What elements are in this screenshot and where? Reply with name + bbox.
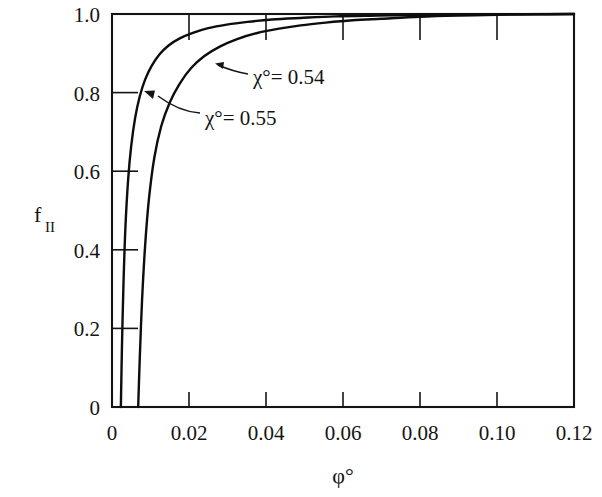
x-axis-top-ticks — [189, 14, 497, 40]
annotation-chi-055: χ°= 0.55 — [204, 106, 277, 130]
x-tick-label: 0.12 — [556, 421, 593, 445]
chart-svg: 1.0 0.8 0.6 0.4 0.2 0 0 0.02 0.04 0.06 0… — [0, 0, 602, 497]
x-tick-label: 0.10 — [479, 421, 516, 445]
x-axis-ticks — [112, 392, 574, 407]
data-curve-chi-054 — [138, 14, 574, 407]
y-axis-label-subscript: II — [45, 219, 55, 235]
y-tick-label: 0.6 — [74, 160, 100, 184]
arrowhead-chi-054 — [215, 62, 224, 69]
x-tick-label: 0.08 — [402, 421, 439, 445]
figure-container: 1.0 0.8 0.6 0.4 0.2 0 0 0.02 0.04 0.06 0… — [0, 0, 602, 497]
y-axis-tick-labels: 1.0 0.8 0.6 0.4 0.2 0 — [74, 3, 101, 420]
x-axis-label: φ° — [332, 463, 354, 488]
data-curves — [121, 14, 574, 407]
y-tick-label: 1.0 — [74, 3, 100, 27]
y-axis-ticks — [112, 14, 138, 328]
y-axis-label: f — [34, 202, 42, 227]
x-tick-label: 0.06 — [325, 421, 362, 445]
arrowhead-chi-055 — [144, 91, 155, 100]
y-tick-label: 0.4 — [74, 239, 101, 263]
y-tick-label: 0.2 — [74, 317, 100, 341]
x-axis-tick-labels: 0 0.02 0.04 0.06 0.08 0.10 0.12 — [107, 421, 593, 445]
leader-line-chi-055 — [158, 96, 200, 113]
data-curve-chi-055 — [121, 14, 574, 407]
x-tick-label: 0 — [107, 421, 118, 445]
x-tick-label: 0.02 — [171, 421, 208, 445]
x-tick-label: 0.04 — [248, 421, 285, 445]
plot-frame — [112, 14, 574, 407]
y-tick-label: 0.8 — [74, 82, 100, 106]
annotation-chi-054: χ°= 0.54 — [252, 65, 325, 89]
annotation-labels: χ°= 0.54 χ°= 0.55 — [204, 65, 325, 130]
y-tick-label: 0 — [90, 396, 101, 420]
